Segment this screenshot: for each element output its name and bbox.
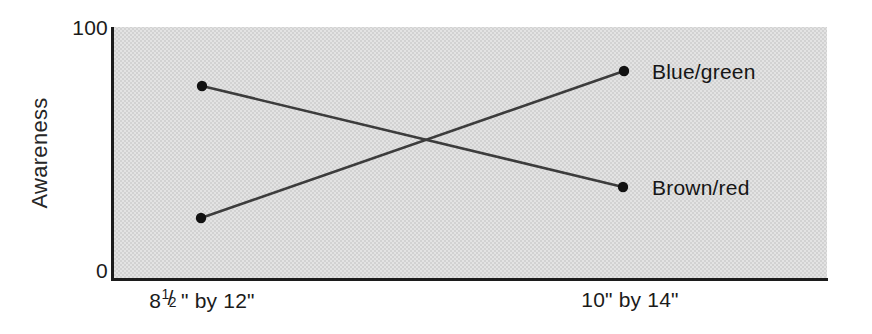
y-axis-max-label: 100	[72, 16, 108, 40]
x-axis-label-0-prefix: 8	[149, 289, 161, 312]
x-axis-label-0-fraction: 1/2	[161, 287, 181, 308]
data-point-blue-green-1	[619, 66, 629, 76]
data-point-blue-green-0	[196, 213, 206, 223]
x-axis-label-0: 81/2" by 12"	[149, 287, 255, 314]
chart-plot-area	[0, 0, 872, 334]
slope-chart-figure: 100 0 Awareness 81/2" by 12" 10" by 14" …	[0, 0, 872, 334]
y-axis-min-label: 0	[96, 259, 108, 283]
data-point-brown-red-0	[197, 81, 207, 91]
x-axis-label-0-suffix: " by 12"	[181, 289, 255, 312]
data-point-brown-red-1	[618, 182, 628, 192]
series-label-blue-green: Blue/green	[652, 60, 756, 84]
series-label-brown-red: Brown/red	[652, 176, 750, 200]
fraction-denominator: 2	[169, 289, 177, 315]
x-axis-label-1: 10" by 14"	[581, 287, 678, 313]
y-axis-title: Awareness	[26, 27, 54, 279]
